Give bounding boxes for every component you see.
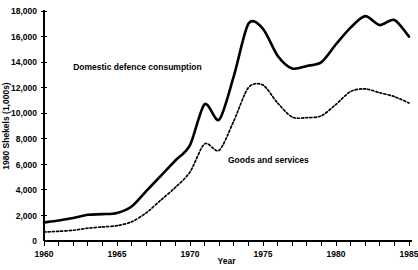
x-axis-tick-label: 1975 <box>254 249 273 259</box>
y-axis-tick-label: 0 <box>32 236 37 246</box>
x-axis-tick-label: 1980 <box>327 249 346 259</box>
x-axis-tick-marks <box>44 241 409 246</box>
y-axis-tick-label: 12,000 <box>11 83 37 93</box>
series-label-domestic-defence-consumption: Domestic defence consumption <box>73 62 201 72</box>
data-series <box>44 16 409 232</box>
y-axis-tick-label: 16,000 <box>11 32 37 42</box>
series-annotations: Domestic defence consumption Goods and s… <box>73 62 309 165</box>
line-chart: 02,0004,0006,0008,00010,00012,00014,0001… <box>0 0 418 270</box>
y-axis-tick-label: 18,000 <box>11 6 37 16</box>
y-axis-tick-label: 6,000 <box>16 160 38 170</box>
y-axis-title: 1980 Shekels (1,000s) <box>1 82 11 170</box>
y-axis-tick-labels: 02,0004,0006,0008,00010,00012,00014,0001… <box>11 6 37 246</box>
x-axis-tick-label: 1960 <box>35 249 54 259</box>
x-axis-title: Year <box>218 256 237 266</box>
y-axis-tick-label: 4,000 <box>16 185 38 195</box>
y-axis-tick-label: 10,000 <box>11 108 37 118</box>
y-axis-tick-label: 8,000 <box>16 134 38 144</box>
series-label-goods-and-services: Goods and services <box>228 155 309 165</box>
y-axis-tick-label: 14,000 <box>11 57 37 67</box>
series-domestic-defence-consumption-line <box>44 16 409 222</box>
x-axis-tick-label: 1965 <box>108 249 127 259</box>
y-axis-tick-label: 2,000 <box>16 211 38 221</box>
x-axis-tick-label: 1985 <box>400 249 418 259</box>
axis-lines <box>44 10 412 241</box>
series-goods-and-services-line <box>44 84 409 232</box>
chart-container: 02,0004,0006,0008,00010,00012,00014,0001… <box>0 0 418 270</box>
x-axis-tick-label: 1970 <box>181 249 200 259</box>
